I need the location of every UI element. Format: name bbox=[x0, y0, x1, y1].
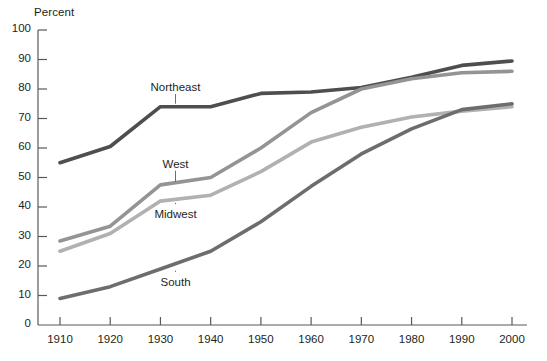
chart-plot-area bbox=[0, 0, 547, 361]
y-axis-tick-label: 50 bbox=[0, 170, 31, 182]
series-label-midwest: Midwest bbox=[126, 208, 226, 220]
y-axis-tick-label: 0 bbox=[0, 317, 31, 329]
y-axis-tick-label: 40 bbox=[0, 199, 31, 211]
y-axis-tick-label: 30 bbox=[0, 229, 31, 241]
line-chart: Percent 01020304050607080901001910192019… bbox=[0, 0, 547, 361]
x-axis-tick-label: 1950 bbox=[235, 333, 287, 345]
x-axis-tick-label: 1990 bbox=[436, 333, 488, 345]
x-axis-tick-label: 1940 bbox=[185, 333, 237, 345]
x-axis-tick-label: 1920 bbox=[84, 333, 136, 345]
x-axis-tick-label: 1960 bbox=[285, 333, 337, 345]
y-axis-tick-label: 90 bbox=[0, 52, 31, 64]
y-axis-tick-label: 60 bbox=[0, 140, 31, 152]
y-axis-tick-label: 10 bbox=[0, 288, 31, 300]
x-axis-tick-label: 1930 bbox=[134, 333, 186, 345]
chart-series bbox=[60, 61, 512, 298]
y-axis-tick-label: 100 bbox=[0, 22, 31, 34]
y-axis-tick-label: 70 bbox=[0, 111, 31, 123]
x-axis-tick-label: 1910 bbox=[34, 333, 86, 345]
x-axis-tick-label: 1970 bbox=[335, 333, 387, 345]
x-axis-tick-label: 2000 bbox=[486, 333, 538, 345]
x-axis-tick-label: 1980 bbox=[386, 333, 438, 345]
series-label-west: West bbox=[126, 158, 226, 170]
series-label-south: South bbox=[126, 276, 226, 288]
y-axis-tick-label: 20 bbox=[0, 258, 31, 270]
y-axis-tick-label: 80 bbox=[0, 81, 31, 93]
series-label-northeast: Northeast bbox=[126, 81, 226, 93]
